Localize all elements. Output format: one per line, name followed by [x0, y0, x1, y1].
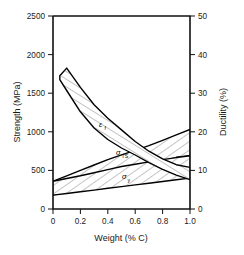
y-right-tick-20: 20: [198, 128, 208, 137]
y-left-tick-1500: 1500: [27, 89, 46, 98]
x-tick-0p2: 0.2: [75, 217, 87, 226]
y-left-ticklabels: 0 500 1000 1500 2000 2500: [27, 12, 46, 214]
y-right-tick-50: 50: [198, 12, 208, 21]
x-tick-1p0: 1.0: [184, 217, 196, 226]
y-left-axis-title: Strength (MPa): [12, 81, 22, 142]
y-right-ticklabels: 0 10 20 30 40 50: [198, 12, 208, 214]
y-left-ticks: [48, 16, 53, 209]
y-right-tick-30: 30: [198, 89, 208, 98]
x-ticklabels: 0 0.2 0.4 0.6 0.8 1.0: [51, 217, 196, 226]
y-right-tick-0: 0: [198, 205, 203, 214]
y-right-axis-title: Ductility (%): [218, 88, 228, 136]
y-left-tick-500: 500: [31, 166, 45, 175]
y-left-tick-0: 0: [40, 205, 45, 214]
y-right-tick-10: 10: [198, 166, 208, 175]
y-left-tick-1000: 1000: [27, 128, 46, 137]
y-left-tick-2500: 2500: [27, 12, 46, 21]
tensile-subscript: TS: [122, 153, 129, 159]
x-tick-0: 0: [51, 217, 56, 226]
x-tick-0p4: 0.4: [102, 217, 114, 226]
x-axis-title: Weight (% C): [94, 233, 147, 243]
x-tick-0p6: 0.6: [130, 217, 142, 226]
x-tick-0p8: 0.8: [157, 217, 169, 226]
yield-subscript: y: [128, 177, 131, 183]
y-right-tick-40: 40: [198, 51, 208, 60]
yield-symbol: σ: [122, 172, 127, 181]
x-ticks: [53, 209, 190, 214]
y-right-ticks: [190, 16, 195, 209]
chart-canvas: 0 500 1000 1500 2000 2500 0 10 20 30 40 …: [0, 0, 244, 255]
tensile-symbol: σ: [116, 148, 121, 157]
strength-ductility-chart: 0 500 1000 1500 2000 2500 0 10 20 30 40 …: [0, 0, 244, 255]
y-left-tick-2000: 2000: [27, 51, 46, 60]
